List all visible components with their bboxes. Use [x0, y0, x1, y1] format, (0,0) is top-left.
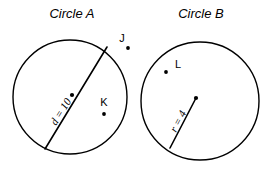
- circle-a-center-dot: [70, 93, 74, 97]
- circle-b-title: Circle B: [178, 6, 224, 21]
- circle-a-diameter-label: d = 10: [48, 95, 74, 127]
- point-l-label: L: [175, 58, 181, 70]
- circle-a-group: Circle A d = 10 K: [13, 6, 127, 154]
- point-l-dot: [164, 70, 168, 74]
- point-k-dot: [102, 112, 106, 116]
- circle-a-diameter-segment: [45, 47, 107, 149]
- circle-b-center-dot: [194, 96, 198, 100]
- point-j-group: J: [119, 32, 130, 50]
- point-j-label: J: [119, 32, 125, 44]
- circle-geometry-diagram: Circle A d = 10 K J Circle B r = 4 L: [0, 0, 270, 171]
- point-k-label: K: [100, 96, 108, 108]
- circle-b-group: Circle B r = 4 L: [141, 6, 259, 160]
- circle-b-outline: [141, 42, 259, 160]
- circle-a-outline: [13, 40, 127, 154]
- point-j-dot: [126, 46, 130, 50]
- circle-a-title: Circle A: [49, 6, 94, 21]
- circle-b-radius-label: r = 4: [167, 108, 188, 134]
